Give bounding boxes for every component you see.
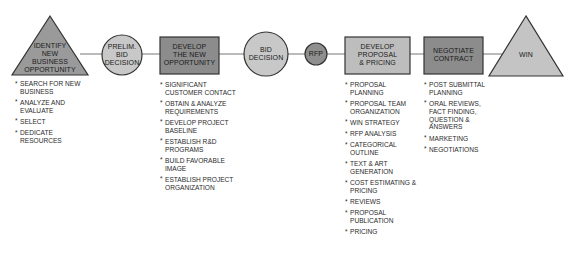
list-item: PROPOSAL PUBLICATION: [345, 209, 417, 225]
prelim-label-line: PRELIM.: [102, 43, 142, 51]
negotiate-activities-list: POST SUBMITTAL PLANNING ORAL REVIEWS, FA…: [424, 81, 496, 157]
list-item: WIN STRATEGY: [345, 119, 417, 127]
develop-proposal-label-line: PROPOSAL: [345, 51, 410, 59]
list-item: NEGOTIATIONS: [424, 146, 496, 154]
develop-opportunity-activities-list: SIGNIFICANT CUSTOMER CONTACT OBTAIN & AN…: [160, 81, 245, 195]
develop-opportunity-label-line: OPPORTUNITY: [160, 59, 219, 67]
prelim-label-line: BID: [102, 51, 142, 59]
identify-label-line: BUSINESS: [18, 58, 82, 66]
win-triangle-shape: [489, 16, 563, 76]
identify-label-line: IDENTIFY: [18, 42, 82, 50]
bid-label: BID DECISION: [244, 46, 288, 62]
list-item: ESTABLISH PROJECT ORGANIZATION: [160, 176, 245, 192]
develop-proposal-label-line: DEVELOP: [345, 43, 410, 51]
rfp-label-line: RFP: [305, 50, 327, 58]
list-item: DEVELOP PROJECT BASELINE: [160, 119, 245, 135]
develop-opportunity-label: DEVELOP THE NEW OPPORTUNITY: [160, 43, 219, 67]
list-item: REVIEWS: [345, 198, 417, 206]
list-item: PRICING: [345, 228, 417, 236]
develop-opportunity-label-line: THE NEW: [160, 51, 219, 59]
list-item: MARKETING: [424, 135, 496, 143]
develop-proposal-label: DEVELOP PROPOSAL & PRICING: [345, 43, 410, 67]
list-item: OBTAIN & ANALYZE REQUIREMENTS: [160, 100, 245, 116]
prelim-label-line: DECISION: [102, 59, 142, 67]
list-item: PROPOSAL PLANNING: [345, 81, 417, 97]
list-item: PROPOSAL TEAM ORGANIZATION: [345, 100, 417, 116]
bid-label-line: DECISION: [244, 54, 288, 62]
list-item: ESTABLISH R&D PROGRAMS: [160, 138, 245, 154]
rfp-label: RFP: [305, 50, 327, 58]
list-item: BUILD FAVORABLE IMAGE: [160, 157, 245, 173]
list-item: SELECT: [15, 118, 90, 126]
win-label-line: WIN: [506, 51, 546, 59]
bid-label-line: BID: [244, 46, 288, 54]
list-item: DEDICATE RESOURCES: [15, 129, 90, 145]
list-item: RFP ANALYSIS: [345, 130, 417, 138]
negotiate-label-line: NEGOTIATE: [424, 47, 483, 55]
win-label: WIN: [506, 51, 546, 59]
identify-label: IDENTIFY NEW BUSINESS OPPORTUNITY: [18, 42, 82, 74]
develop-proposal-activities-list: PROPOSAL PLANNING PROPOSAL TEAM ORGANIZA…: [345, 81, 417, 240]
develop-proposal-label-line: & PRICING: [345, 59, 410, 67]
list-item: SIGNIFICANT CUSTOMER CONTACT: [160, 81, 245, 97]
identify-activities-list: SEARCH FOR NEW BUSINESS ANALYZE AND EVAL…: [15, 80, 90, 148]
develop-opportunity-label-line: DEVELOP: [160, 43, 219, 51]
list-item: ORAL REVIEWS, FACT FINDING, QUESTION & A…: [424, 100, 496, 131]
list-item: CATEGORICAL OUTLINE: [345, 141, 417, 157]
list-item: COST ESTIMATING & PRICING: [345, 179, 417, 195]
negotiate-label: NEGOTIATE CONTRACT: [424, 47, 483, 63]
negotiate-label-line: CONTRACT: [424, 55, 483, 63]
identify-label-line: OPPORTUNITY: [18, 66, 82, 74]
list-item: TEXT & ART GENERATION: [345, 160, 417, 176]
list-item: SEARCH FOR NEW BUSINESS: [15, 80, 90, 96]
identify-label-line: NEW: [18, 50, 82, 58]
list-item: POST SUBMITTAL PLANNING: [424, 81, 496, 97]
prelim-label: PRELIM. BID DECISION: [102, 43, 142, 67]
list-item: ANALYZE AND EVALUATE: [15, 99, 90, 115]
